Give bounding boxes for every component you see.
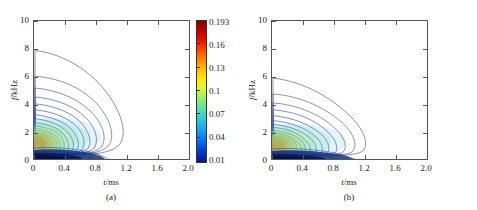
yticklabel-b-10: 10 <box>250 16 267 25</box>
cbar-a-label-3: 0.1 <box>209 87 220 96</box>
yaxis-title-a: f/kHz <box>10 80 19 100</box>
plot-area-b <box>271 20 428 160</box>
cbar-a-tick-4 <box>197 113 200 114</box>
ytick-right-b-2 <box>423 133 427 134</box>
xaxis-title-b-unit: /ms <box>344 177 357 187</box>
xtick-a-4 <box>158 155 159 159</box>
panel-a: 0 0.4 0.8 1.2 1.6 2.0 0 2 4 6 8 10 t/ms … <box>0 0 238 210</box>
colorbar-a <box>196 20 207 163</box>
ytick-b-2 <box>272 133 276 134</box>
ytick-right-a-6 <box>185 77 189 78</box>
xtick-a-3 <box>127 155 128 159</box>
xtick-b-3 <box>365 155 366 159</box>
cbar-a-label-6: 0.01 <box>209 156 225 165</box>
ytick-right-a-4 <box>185 105 189 106</box>
xaxis-title-b: t/ms <box>341 178 357 187</box>
xtick-a-2 <box>96 155 97 159</box>
xaxis-title-a: t/ms <box>103 178 119 187</box>
panel-caption-a: (a) <box>106 193 116 202</box>
plot-area-a <box>33 20 190 160</box>
contour-plot-b <box>272 21 427 159</box>
yaxis-title-a-var: f <box>9 97 19 100</box>
xaxis-title-a-unit: /ms <box>106 177 119 187</box>
ytick-b-8 <box>272 49 276 50</box>
xtick-top-b-1 <box>303 21 304 25</box>
xticklabel-b-2: 0.8 <box>327 164 338 173</box>
ytick-right-b-8 <box>423 49 427 50</box>
xticklabel-b-1: 0.4 <box>296 164 307 173</box>
xtick-top-b-2 <box>334 21 335 25</box>
cbar-a-tick-3 <box>197 90 200 91</box>
panel-caption-b: (b) <box>344 193 355 202</box>
yticklabel-b-0: 0 <box>250 156 267 165</box>
xtick-top-b-3 <box>365 21 366 25</box>
yticklabel-a-2: 2 <box>12 128 29 137</box>
xtick-top-a-4 <box>158 21 159 25</box>
yaxis-title-b: f/kHz <box>248 80 257 100</box>
yaxis-title-a-unit: /kHz <box>9 80 19 98</box>
cbar-a-label-5: 0.04 <box>209 133 225 142</box>
yticklabel-a-0: 0 <box>12 156 29 165</box>
cbar-a-tick-2 <box>197 67 200 68</box>
yticklabel-a-4: 4 <box>12 100 29 109</box>
ytick-a-4 <box>34 105 38 106</box>
xticklabel-a-4: 1.6 <box>151 164 162 173</box>
xticklabel-b-0: 0 <box>269 164 274 173</box>
yticklabel-b-2: 2 <box>250 128 267 137</box>
yaxis-title-b-var: f <box>247 97 257 100</box>
xticklabel-a-1: 0.4 <box>58 164 69 173</box>
xtick-top-a-3 <box>127 21 128 25</box>
yticklabel-b-8: 8 <box>250 44 267 53</box>
xtick-b-4 <box>396 155 397 159</box>
cbar-a-label-0: 0.193 <box>209 18 229 27</box>
xtick-b-5 <box>427 155 428 159</box>
xtick-b-0 <box>272 155 273 159</box>
ytick-b-4 <box>272 105 276 106</box>
xtick-top-b-4 <box>396 21 397 25</box>
xtick-a-0 <box>34 155 35 159</box>
cbar-a-label-4: 0.07 <box>209 110 225 119</box>
xticklabel-a-5: 2.0 <box>182 164 193 173</box>
figure-two-contour-panels: 0 0.4 0.8 1.2 1.6 2.0 0 2 4 6 8 10 t/ms … <box>0 0 477 210</box>
cbar-a-tick-5 <box>197 137 200 138</box>
cbar-a-tick-1 <box>197 43 200 44</box>
yticklabel-a-8: 8 <box>12 44 29 53</box>
ytick-a-2 <box>34 133 38 134</box>
cbar-a-label-1: 0.16 <box>209 41 225 50</box>
ytick-b-10 <box>272 21 276 22</box>
xtick-top-a-1 <box>65 21 66 25</box>
xticklabel-b-3: 1.2 <box>358 164 369 173</box>
ytick-a-10 <box>34 21 38 22</box>
panel-b: 0 0.4 0.8 1.2 1.6 2.0 0 2 4 6 8 10 t/ms … <box>238 0 477 210</box>
ytick-a-6 <box>34 77 38 78</box>
xtick-a-5 <box>189 155 190 159</box>
xticklabel-b-4: 1.6 <box>389 164 400 173</box>
xticklabel-b-5: 2.0 <box>420 164 431 173</box>
cbar-a-label-2: 0.13 <box>209 64 225 73</box>
ytick-a-8 <box>34 49 38 50</box>
xticklabel-a-0: 0 <box>31 164 36 173</box>
ytick-right-a-2 <box>185 133 189 134</box>
xticklabel-a-2: 0.8 <box>89 164 100 173</box>
ytick-right-a-8 <box>185 49 189 50</box>
ytick-right-b-6 <box>423 77 427 78</box>
yaxis-title-b-unit: /kHz <box>247 80 257 98</box>
xtick-top-a-2 <box>96 21 97 25</box>
yticklabel-a-10: 10 <box>12 16 29 25</box>
ytick-right-b-4 <box>423 105 427 106</box>
xticklabel-a-3: 1.2 <box>120 164 131 173</box>
yticklabel-b-4: 4 <box>250 100 267 109</box>
contour-plot-a <box>34 21 189 159</box>
xtick-b-2 <box>334 155 335 159</box>
ytick-b-6 <box>272 77 276 78</box>
xtick-b-1 <box>303 155 304 159</box>
xtick-a-1 <box>65 155 66 159</box>
